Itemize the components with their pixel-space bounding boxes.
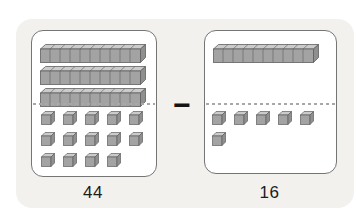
unit-cube	[234, 111, 248, 125]
unit-cube	[107, 111, 121, 125]
minus-operator: −	[168, 92, 196, 118]
minuend-value-label: 44	[31, 183, 155, 203]
unit-cube	[107, 132, 121, 146]
unit-cube	[41, 132, 55, 146]
unit-cube	[212, 132, 226, 146]
unit-cube	[129, 132, 143, 146]
unit-cube-row	[212, 132, 332, 146]
unit-cube-row	[212, 111, 332, 125]
tens-rod	[40, 44, 146, 63]
subtrahend-value-label: 16	[204, 183, 335, 203]
unit-cube-row	[41, 153, 152, 167]
unit-cube	[63, 153, 77, 167]
unit-cube	[63, 111, 77, 125]
unit-cube	[41, 111, 55, 125]
unit-cube-row	[41, 132, 152, 146]
unit-cube	[85, 153, 99, 167]
ones-cubes-subtrahend	[212, 111, 332, 146]
unit-cube	[63, 132, 77, 146]
unit-cube	[129, 111, 143, 125]
worksheet-figure: − 44 16	[0, 0, 356, 220]
unit-cube	[107, 153, 121, 167]
unit-cube-row	[41, 111, 152, 125]
unit-cube	[300, 111, 314, 125]
unit-cube	[85, 132, 99, 146]
unit-cube	[278, 111, 292, 125]
tens-rods-minuend	[40, 44, 152, 107]
tens-rod	[40, 66, 146, 85]
figure-panel: − 44 16	[16, 19, 354, 208]
unit-cube	[256, 111, 270, 125]
tens-ones-divider-right	[206, 103, 335, 105]
card-subtrahend	[204, 30, 337, 174]
card-minuend	[31, 30, 157, 177]
tens-rods-subtrahend	[213, 44, 332, 63]
unit-cube	[85, 111, 99, 125]
tens-ones-divider-left	[33, 103, 155, 105]
unit-cube	[212, 111, 226, 125]
ones-cubes-minuend	[41, 111, 152, 167]
tens-rod	[213, 44, 319, 63]
unit-cube	[41, 153, 55, 167]
